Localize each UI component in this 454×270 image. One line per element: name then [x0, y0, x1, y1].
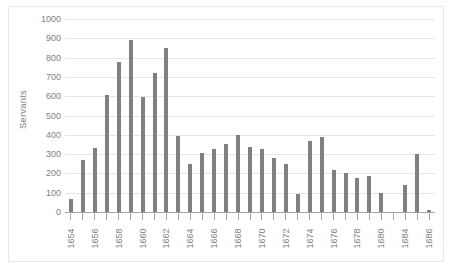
x-axis-tick-label: 1654	[66, 228, 75, 248]
bar-slot	[423, 19, 435, 212]
bar	[272, 158, 276, 212]
x-axis-tick-mark-slot	[113, 213, 125, 220]
y-axis-tick-label: 500	[31, 111, 61, 120]
x-axis-tick-label-slot	[387, 221, 399, 261]
chart-frame: Servants 1000900800700600500400300200100…	[8, 6, 444, 262]
x-axis-tick-mark-slot	[316, 213, 328, 220]
x-axis-tick-label-slot: 1680	[375, 221, 387, 261]
bar-slot	[316, 19, 328, 212]
bar	[296, 194, 300, 212]
x-axis-tick-mark	[417, 213, 418, 220]
y-axis-tick-label: 900	[31, 34, 61, 43]
x-axis-tick-mark	[261, 213, 262, 220]
x-axis-tick-mark-slot	[232, 213, 244, 220]
x-axis-tick-mark-slot	[89, 213, 101, 220]
x-axis-tick-mark-slot	[304, 213, 316, 220]
x-axis-tick-label: 1660	[138, 228, 147, 248]
x-axis-tick-mark-slot	[184, 213, 196, 220]
bar-series	[65, 19, 435, 212]
bar-slot	[411, 19, 423, 212]
x-axis-tick-mark-slot	[268, 213, 280, 220]
x-axis-tick-label-slot: 1666	[208, 221, 220, 261]
x-axis-tick-label: 1686	[425, 228, 434, 248]
x-axis-tick-mark	[250, 213, 251, 220]
x-axis-tick-mark-slot	[399, 213, 411, 220]
x-axis-tick-label-slot	[101, 221, 113, 261]
plot-area	[65, 19, 435, 213]
x-axis-tick-mark-slot	[77, 213, 89, 220]
x-axis-tick-label-slot: 1684	[399, 221, 411, 261]
bar-slot	[77, 19, 89, 212]
x-axis-tick-mark-slot	[375, 213, 387, 220]
x-axis-tick-mark	[214, 213, 215, 220]
x-axis-tick-label-slot	[172, 221, 184, 261]
x-axis-tick-mark	[190, 213, 191, 220]
bar-slot	[184, 19, 196, 212]
x-axis-tick-labels: 1654165616581660166216641666166816701672…	[65, 221, 435, 261]
x-axis-tick-mark	[226, 213, 227, 220]
x-axis-tick-mark	[154, 213, 155, 220]
x-axis-tick-mark-slot	[280, 213, 292, 220]
bar-slot	[328, 19, 340, 212]
bar-slot	[220, 19, 232, 212]
bar-slot	[363, 19, 375, 212]
x-axis-tick-label-slot: 1654	[65, 221, 77, 261]
bar	[69, 199, 73, 212]
x-axis-tick-mark-slot	[363, 213, 375, 220]
bar-slot	[196, 19, 208, 212]
x-axis-tick-mark	[333, 213, 334, 220]
bar	[248, 147, 252, 212]
x-axis-tick-mark	[309, 213, 310, 220]
y-axis-tick-label: 800	[31, 53, 61, 62]
bar	[260, 149, 264, 212]
bar-slot	[161, 19, 173, 212]
bar	[308, 141, 312, 212]
x-axis-tick-mark-slot	[196, 213, 208, 220]
chart-plot-wrapper: Servants 1000900800700600500400300200100…	[9, 7, 443, 261]
bar-slot	[387, 19, 399, 212]
x-axis-tick-label-slot: 1662	[161, 221, 173, 261]
x-axis-tick-label: 1656	[90, 228, 99, 248]
x-axis-tick-mark	[130, 213, 131, 220]
x-axis-tick-label-slot	[340, 221, 352, 261]
bar	[427, 210, 431, 212]
bar	[320, 137, 324, 212]
x-axis-tick-label-slot	[411, 221, 423, 261]
bar-slot	[280, 19, 292, 212]
bar-slot	[149, 19, 161, 212]
x-axis-tick-label-slot: 1658	[113, 221, 125, 261]
x-axis-tick-label-slot	[268, 221, 280, 261]
y-axis-title: Servants	[15, 7, 31, 212]
x-axis-tick-label-slot: 1678	[352, 221, 364, 261]
x-axis-tick-mark	[178, 213, 179, 220]
x-axis-tick-mark	[94, 213, 95, 220]
x-axis-tick-mark	[357, 213, 358, 220]
x-axis-tick-label-slot	[196, 221, 208, 261]
bar	[188, 164, 192, 212]
x-axis-tick-label: 1664	[186, 228, 195, 248]
x-axis-tick-label-slot	[125, 221, 137, 261]
bar	[117, 62, 121, 212]
x-axis-tick-label-slot: 1668	[232, 221, 244, 261]
bar	[129, 40, 133, 212]
x-axis-tick-label: 1684	[401, 228, 410, 248]
y-axis-tick-label: 0	[31, 208, 61, 217]
bar	[153, 73, 157, 212]
x-axis-tick-label-slot: 1676	[328, 221, 340, 261]
bar	[284, 164, 288, 212]
bar-slot	[352, 19, 364, 212]
x-axis-tick-label: 1678	[353, 228, 362, 248]
x-axis-tick-label: 1662	[162, 228, 171, 248]
y-axis-tick-label: 600	[31, 92, 61, 101]
bar-slot	[113, 19, 125, 212]
x-axis-tick-mark-slot	[172, 213, 184, 220]
x-axis-tick-mark-slot	[352, 213, 364, 220]
x-axis-tick-mark-slot	[149, 213, 161, 220]
bar-slot	[256, 19, 268, 212]
bar-slot	[375, 19, 387, 212]
y-axis-tick-labels: 10009008007006005004003002001000	[31, 19, 61, 212]
x-axis-tick-label-slot	[220, 221, 232, 261]
x-axis-tick-mark	[381, 213, 382, 220]
bar	[344, 173, 348, 212]
x-axis-tick-label-slot: 1674	[304, 221, 316, 261]
